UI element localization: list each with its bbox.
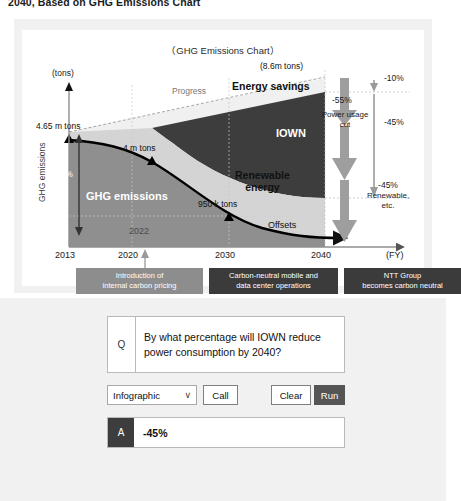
- answer-text: -45%: [134, 418, 344, 447]
- value-label-2020: 4 m tons: [123, 144, 156, 154]
- call-button[interactable]: Call: [203, 385, 238, 405]
- power-cut-pct: -55%: [332, 96, 352, 106]
- renewable-ann-line2: etc.: [382, 201, 395, 210]
- source-select[interactable]: Infographic ∨: [107, 385, 197, 405]
- answer-box: A -45%: [107, 417, 345, 448]
- qa-panel: Q By what percentage will IOWN reduce po…: [0, 298, 446, 501]
- renewable-annotation: -45% Renewable, etc.: [358, 180, 418, 211]
- y-axis-title: GHG emissions: [38, 142, 48, 202]
- page-title: 2040, Based on GHG Emissions Chart: [8, 0, 438, 8]
- chevron-down-icon: ∨: [184, 390, 191, 400]
- year-2022-marker-head: [141, 249, 149, 258]
- value-label-2013: 4.65 m tons: [36, 122, 80, 132]
- question-input[interactable]: By what percentage will IOWN reduce powe…: [136, 317, 344, 372]
- energy-savings-label: Energy savings: [232, 81, 310, 93]
- x-tick-2020: 2020: [118, 250, 138, 260]
- source-select-value: Infographic: [113, 390, 160, 401]
- value-label-2030: 950 k tons: [198, 200, 237, 210]
- power-cut-line1: Power usage: [322, 110, 369, 119]
- peak-label: (8.6m tons): [260, 62, 303, 72]
- milestone-box-3: NTT Group becomes carbon neutral: [344, 268, 461, 294]
- milestone-2-line2: data center operations: [236, 281, 311, 290]
- x-tick-2040: 2040: [311, 250, 331, 260]
- reduction-label: -80%: [53, 170, 73, 180]
- milestone-1-line1: Introduction of: [116, 271, 164, 280]
- x-axis-unit: (FY): [386, 250, 404, 260]
- answer-tag: A: [108, 418, 134, 447]
- x-tick-2030: 2030: [215, 250, 235, 260]
- y-axis-unit: (tons): [52, 69, 74, 79]
- pct-10-label: -10%: [384, 74, 404, 84]
- milestone-3-line1: NTT Group: [384, 271, 421, 280]
- renewable-arrow: [332, 180, 357, 242]
- pct-45-energy-label: -45%: [384, 118, 404, 128]
- infographic-panel: （GHG Emissions Chart）: [14, 19, 432, 293]
- infographic-card: （GHG Emissions Chart）: [22, 30, 424, 286]
- ghg-emissions-chart: (tons) GHG emissions 4.65 m tons 4 m ton…: [22, 30, 424, 286]
- milestone-box-1: Introduction of internal carbon pricing: [76, 268, 203, 294]
- clear-button[interactable]: Clear: [271, 385, 311, 405]
- power-cut-caption: Power usage cut: [314, 110, 376, 130]
- renewable-pct: -45%: [378, 180, 398, 190]
- milestone-box-2: Carbon-neutral mobile and data center op…: [209, 268, 338, 294]
- renewable-ann-line1: Renewable,: [367, 191, 409, 200]
- question-tag: Q: [108, 317, 136, 372]
- progress-label: Progress: [172, 87, 206, 97]
- iown-label: IOWN: [276, 127, 306, 139]
- controls-row: Infographic ∨ Call Clear Run: [107, 385, 345, 405]
- milestone-1-line2: internal carbon pricing: [103, 281, 177, 290]
- milestone-2-line1: Carbon-neutral mobile and: [229, 271, 318, 280]
- ghg-emissions-label: GHG emissions: [86, 190, 168, 202]
- x-tick-2013: 2013: [55, 250, 75, 260]
- renewable-energy-line1: Renewable: [235, 169, 290, 181]
- run-button[interactable]: Run: [314, 385, 345, 405]
- renewable-energy-label: Renewable energy: [235, 170, 290, 194]
- milestone-3-line2: becomes carbon neutral: [362, 281, 442, 290]
- pct-10-arrow-head: [370, 83, 378, 92]
- question-box: Q By what percentage will IOWN reduce po…: [107, 316, 345, 373]
- year-2022-label: 2022: [129, 226, 149, 236]
- y-axis-arrow: [65, 82, 73, 91]
- offsets-label: Offsets: [268, 220, 296, 230]
- renewable-energy-line2: energy: [245, 181, 279, 193]
- chart-svg: [22, 30, 424, 286]
- power-cut-line2: cut: [340, 120, 351, 129]
